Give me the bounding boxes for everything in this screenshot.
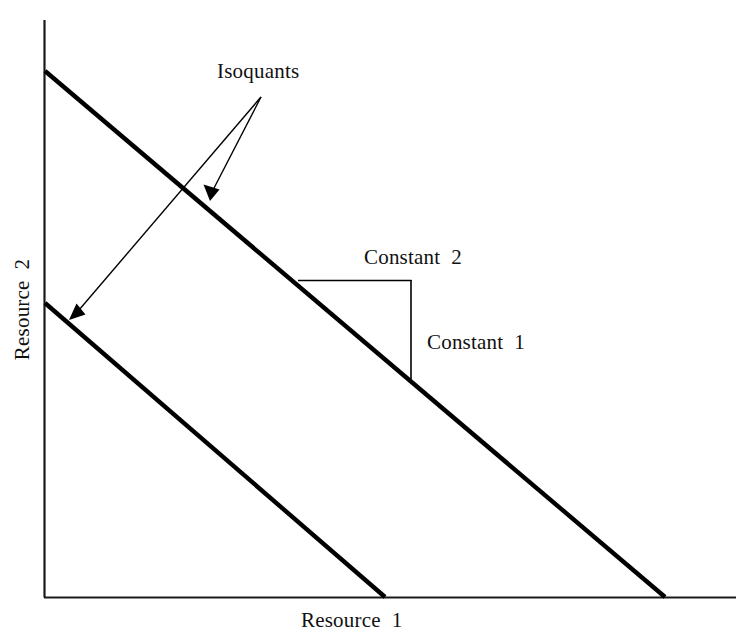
isoquant-diagram: Isoquants Constant 2 Constant 1 Resource… (0, 0, 744, 641)
axes-group (44, 20, 736, 598)
constant-1-annotation-label: Constant 1 (427, 330, 525, 355)
lower-isoquant-line (45, 303, 385, 597)
upper-isoquant-line (45, 71, 665, 597)
y-axis-label: Resource 2 (10, 255, 35, 365)
isoquants-leader-group (69, 97, 261, 320)
leader-to-lower-isoquant (79, 97, 261, 310)
arrowhead-upper-isoquant (204, 185, 220, 202)
leader-to-upper-isoquant (213, 97, 261, 190)
constant-2-annotation-label: Constant 2 (364, 245, 462, 270)
diagram-canvas (0, 0, 744, 641)
isoquants-annotation-label: Isoquants (217, 59, 299, 84)
slope-bracket-group (298, 280, 412, 379)
x-axis-label: Resource 1 (301, 608, 402, 633)
isoquants-group (45, 71, 665, 597)
